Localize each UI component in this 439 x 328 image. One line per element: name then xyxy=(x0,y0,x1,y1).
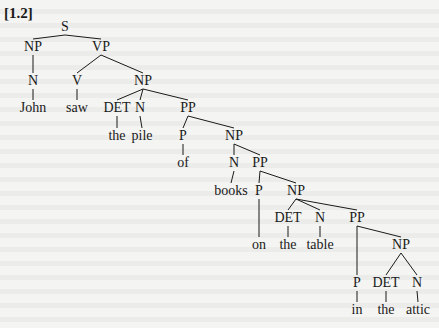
tree-node-det: DET xyxy=(274,210,301,226)
tree-node-n: N xyxy=(412,275,422,291)
tree-node-s: S xyxy=(61,19,69,35)
tree-leaf-word: of xyxy=(177,155,189,171)
tree-node-vp: VP xyxy=(92,39,110,55)
tree-edge xyxy=(259,171,260,183)
tree-node-det: DET xyxy=(372,275,399,291)
tree-edge xyxy=(77,55,101,73)
tree-edge xyxy=(231,171,234,183)
tree-edge xyxy=(401,253,417,275)
tree-node-np: NP xyxy=(134,73,152,89)
tree-leaf-word: table xyxy=(306,237,333,253)
tree-edge xyxy=(101,55,143,73)
tree-node-n: N xyxy=(315,210,325,226)
tree-node-n: N xyxy=(229,155,239,171)
tree-node-p: P xyxy=(255,183,263,199)
tree-node-np: NP xyxy=(392,237,410,253)
tree-edge xyxy=(260,171,296,183)
tree-edge xyxy=(234,144,260,155)
tree-node-pp: PP xyxy=(180,100,196,116)
tree-node-pp: PP xyxy=(349,210,365,226)
tree-node-n: N xyxy=(135,100,145,116)
tree-leaf-word: the xyxy=(377,302,394,318)
tree-leaf-word: saw xyxy=(66,100,88,116)
tree-edge xyxy=(288,199,296,210)
tree-node-np: NP xyxy=(287,183,305,199)
tree-edge xyxy=(296,199,357,210)
tree-leaf-word: John xyxy=(20,100,46,116)
tree-node-p: P xyxy=(179,128,187,144)
tree-node-v: V xyxy=(72,73,82,89)
tree-node-pp: PP xyxy=(252,155,268,171)
tree-node-np: NP xyxy=(225,128,243,144)
tree-edge xyxy=(183,116,188,128)
tree-edge xyxy=(386,253,401,275)
tree-edge xyxy=(140,89,143,100)
tree-leaf-word: books xyxy=(214,183,247,199)
tree-leaf-word: pile xyxy=(132,128,153,144)
tree-leaf-word: on xyxy=(252,237,266,253)
tree-leaf-word: in xyxy=(352,302,363,318)
tree-leaf-word: attic xyxy=(406,302,430,318)
tree-edge xyxy=(188,116,234,128)
tree-edge xyxy=(357,226,401,237)
tree-edge xyxy=(417,291,418,302)
tree-node-np: NP xyxy=(24,39,42,55)
tree-edge xyxy=(296,199,320,210)
tree-edge xyxy=(140,116,142,128)
tree-leaf-word: the xyxy=(279,237,296,253)
tree-node-n: N xyxy=(28,73,38,89)
tree-node-p: P xyxy=(353,275,361,291)
tree-leaf-word: the xyxy=(108,128,125,144)
tree-edge xyxy=(143,89,188,100)
tree-node-det: DET xyxy=(103,100,130,116)
tree-edge xyxy=(117,89,143,100)
